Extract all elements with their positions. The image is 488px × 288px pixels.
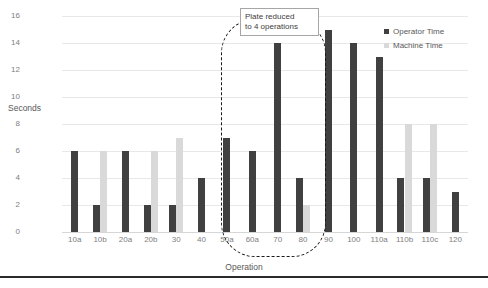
bar-operator-110a	[376, 57, 383, 233]
y-tick-label: 4	[0, 174, 20, 182]
x-tick-label-100: 100	[341, 236, 366, 244]
bar-operator-90	[325, 30, 332, 233]
y-tick-label: 0	[0, 228, 20, 236]
bar-operator-60a	[249, 151, 256, 232]
bar-operator-120	[452, 192, 459, 233]
y-tick-label: 8	[0, 120, 20, 128]
x-tick-label-60a: 60a	[240, 236, 265, 244]
x-tick-label-110c: 110c	[417, 236, 442, 244]
chart-legend: Operator Time Machine Time	[384, 27, 444, 55]
bar-operator-10b	[93, 205, 100, 232]
bar-machine-110b	[405, 124, 412, 232]
bar-machine-10b	[100, 151, 107, 232]
gridline	[62, 70, 468, 71]
x-tick-label-10a: 10a	[62, 236, 87, 244]
bar-operator-30	[169, 205, 176, 232]
x-tick-label-110b: 110b	[392, 236, 417, 244]
legend-label-machine: Machine Time	[393, 41, 443, 50]
x-tick-label-90: 90	[316, 236, 341, 244]
y-tick-label: 14	[0, 39, 20, 47]
bar-operator-110b	[397, 178, 404, 232]
y-axis-title: Seconds	[8, 103, 41, 113]
y-tick-label: 2	[0, 201, 20, 209]
annotation-line-2: to 4 operations	[245, 22, 314, 32]
bar-machine-80	[303, 205, 310, 232]
x-axis-title: Operation	[0, 262, 488, 272]
bar-operator-70	[274, 43, 281, 232]
bar-operator-40	[198, 178, 205, 232]
bar-operator-50a	[223, 138, 230, 233]
legend-item-machine-time: Machine Time	[384, 41, 444, 50]
y-tick-label: 6	[0, 147, 20, 155]
x-tick-label-80: 80	[290, 236, 315, 244]
x-tick-label-120: 120	[443, 236, 468, 244]
bar-machine-20b	[151, 151, 158, 232]
legend-label-operator: Operator Time	[393, 27, 444, 36]
bar-operator-110c	[423, 178, 430, 232]
y-tick-label: 10	[0, 93, 20, 101]
y-tick-label: 12	[0, 66, 20, 74]
bar-operator-10a	[71, 151, 78, 232]
bar-chart: Seconds 0246810121416 10a10b20a20b304050…	[0, 0, 488, 288]
gridline	[62, 232, 468, 233]
x-tick-label-10b: 10b	[87, 236, 112, 244]
annotation-callout: Plate reduced to 4 operations	[240, 8, 319, 36]
bottom-divider	[0, 276, 488, 278]
bar-machine-30	[176, 138, 183, 233]
bar-operator-20a	[122, 151, 129, 232]
x-tick-label-40: 40	[189, 236, 214, 244]
bar-operator-100	[350, 43, 357, 232]
x-tick-label-20a: 20a	[113, 236, 138, 244]
bar-machine-110c	[430, 124, 437, 232]
legend-swatch-icon-operator	[384, 29, 389, 34]
x-tick-label-20b: 20b	[138, 236, 163, 244]
y-tick-label: 16	[0, 12, 20, 20]
x-tick-label-50a: 50a	[214, 236, 239, 244]
annotation-line-1: Plate reduced	[245, 12, 314, 22]
gridline	[62, 97, 468, 98]
x-tick-label-110a: 110a	[367, 236, 392, 244]
legend-swatch-icon-machine	[384, 43, 389, 48]
x-tick-label-70: 70	[265, 236, 290, 244]
x-tick-label-30: 30	[164, 236, 189, 244]
bar-operator-80	[296, 178, 303, 232]
legend-item-operator-time: Operator Time	[384, 27, 444, 36]
bar-operator-20b	[144, 205, 151, 232]
